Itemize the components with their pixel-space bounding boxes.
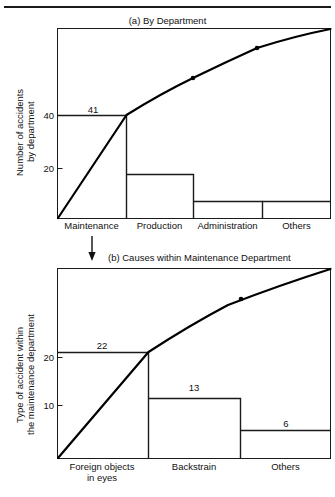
panel-b-bar-value-others: 6 [266, 418, 306, 429]
panel-a-bars [58, 116, 331, 219]
panel-a-category-production: Production [126, 221, 193, 232]
panel-a-cumulative-path [58, 29, 331, 218]
panel-a-plot-frame [58, 29, 331, 219]
panel-b-cumulative-path [58, 269, 331, 458]
panel-a-bar-maintenance [58, 116, 127, 219]
figure-root: (a) By Department Number of accidentsby … [0, 0, 335, 497]
panel-a-y-axis-label-line1: Number of accidents [14, 88, 25, 175]
panel-b-cumulative-line [58, 269, 331, 458]
panel-b-bars [58, 353, 331, 459]
panel-b-ytick-10: 10 [32, 400, 54, 411]
panel-b-cumulative-marker-2 [239, 297, 244, 302]
panel-a-bar-production [127, 175, 194, 219]
down-arrow-icon [88, 252, 95, 261]
panel-b-category-foreign-objects-line2: in eyes [87, 472, 117, 483]
panel-a-bar-value-maintenance: 41 [73, 104, 113, 115]
panel-b-y-axis-label: Type of accident withinthe maintenance d… [14, 300, 36, 450]
panel-a-y-axis-label: Number of accidentsby department [14, 72, 36, 192]
panel-a-title: (a) By Department [0, 15, 335, 26]
panel-a-ytick-40: 40 [32, 110, 54, 121]
panel-b-category-foreign-objects-line1: Foreign objects [70, 461, 135, 472]
panel-connector-arrow [88, 236, 95, 261]
panel-b-y-axis-label-line2: the maintenance department [25, 315, 36, 436]
panel-b-bar-value-backstrain: 13 [174, 382, 214, 393]
panel-b-axes [58, 269, 331, 459]
panel-b-bar-backstrain [149, 399, 241, 459]
panel-b-bar-value-foreign-objects: 22 [82, 340, 122, 351]
panel-b-plot-frame [58, 269, 331, 459]
panel-b-category-backstrain: Backstrain [148, 462, 240, 473]
header-rule [4, 6, 331, 8]
panel-a-category-others: Others [262, 221, 331, 232]
panel-b-ytick-20: 20 [32, 352, 54, 363]
panel-a-bar-administration [194, 202, 263, 219]
panel-a-category-maintenance: Maintenance [57, 221, 126, 232]
panel-a-axes [58, 29, 331, 219]
panel-a-cumulative-line [58, 29, 331, 218]
panel-b-title: (b) Causes within Maintenance Department [108, 252, 291, 263]
panel-b-y-axis-label-line1: Type of accident within [14, 327, 25, 423]
panel-b-bar-foreign-objects [58, 353, 149, 459]
panel-a-category-administration: Administration [191, 221, 264, 232]
clipped-header-text [150, 0, 210, 3]
panel-a-ytick-20: 20 [32, 163, 54, 174]
panel-a-cumulative-marker-3 [255, 46, 260, 51]
panel-a-cumulative-marker-2 [191, 76, 196, 81]
panel-b-category-others: Others [240, 462, 331, 473]
panel-b-category-foreign-objects: Foreign objectsin eyes [52, 462, 152, 483]
